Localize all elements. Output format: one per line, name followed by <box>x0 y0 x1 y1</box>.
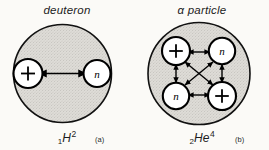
mass-number-he: 4 <box>209 129 214 139</box>
element-symbol-h: H <box>62 131 71 145</box>
nuclide-label-helium-4: 2He4 <box>135 129 269 146</box>
neutron-top-right-label: n <box>219 45 225 57</box>
bond-diagonal-1 <box>185 62 213 85</box>
nuclide-label-hydrogen-2: 1H2 <box>0 129 134 146</box>
exchange-force-bonds <box>176 52 222 95</box>
panel-deuteron: deuteron <box>0 0 134 150</box>
caption-letter-a: (a) <box>95 135 104 144</box>
panel-title-deuteron: deuteron <box>0 4 134 16</box>
nucleon-neutron-1: n <box>84 60 111 87</box>
element-symbol-he: He <box>194 131 209 145</box>
deuteron-nucleus-boundary <box>14 25 112 123</box>
deuteron-nucleus-diagram: n <box>0 0 134 150</box>
nucleon-proton-1 <box>14 59 43 88</box>
neutron-1-label: n <box>94 68 100 80</box>
nuclear-structure-figure: deuteron <box>0 0 269 150</box>
panel-alpha-particle: α particle <box>135 0 269 150</box>
mass-number-h: 2 <box>71 129 76 139</box>
caption-letter-b: (b) <box>235 135 244 144</box>
alpha-nucleus-boundary <box>148 23 250 125</box>
nucleon-proton-top-left <box>162 37 190 65</box>
exchange-force-arrow <box>40 71 85 77</box>
nucleon-neutron-top-right: n <box>209 38 235 64</box>
nucleon-neutron-bottom-left: n <box>163 83 189 109</box>
alpha-particle-nucleus-diagram: n n <box>135 0 269 150</box>
neutron-bottom-left-label: n <box>173 90 179 102</box>
panel-title-alpha-particle: α particle <box>135 4 269 16</box>
nucleon-proton-bottom-right <box>208 82 236 110</box>
bond-diagonal-2 <box>185 62 213 85</box>
